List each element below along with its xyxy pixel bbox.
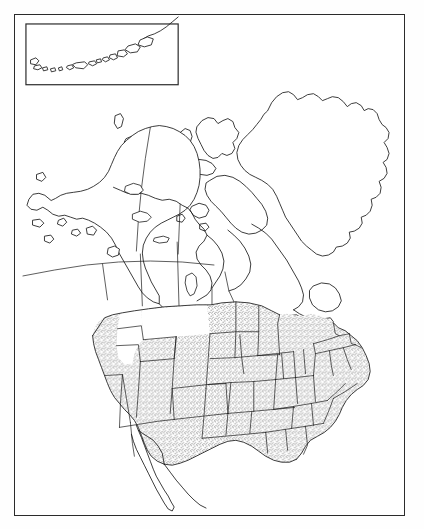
unalaska-island-inset (125, 44, 140, 53)
aleutian-islet-7 (51, 68, 56, 72)
unimak-island-inset (138, 37, 153, 47)
kodiak-island (108, 246, 120, 257)
aleutian-islet-8 (43, 67, 48, 71)
us-stipple-shading (75, 294, 393, 483)
lake-athabasca (153, 236, 169, 243)
saint-lawrence-island (33, 219, 44, 227)
contiguous-united-states (75, 294, 393, 483)
page-frame (14, 14, 405, 516)
labrador-coastline (252, 224, 304, 310)
alaska-coastline (27, 126, 200, 304)
newfoundland-island (309, 283, 341, 312)
alaska-west-islet (37, 172, 46, 181)
baffin-island (205, 175, 268, 234)
alaska-peninsula-inset (143, 17, 178, 39)
aleutian-islet-6 (59, 67, 63, 71)
hudson-bay-east-shore (228, 230, 251, 291)
hudson-bay-west-shore (207, 235, 224, 288)
aleutian-islet-2 (103, 57, 110, 62)
ontario-quebec-boundary (225, 272, 235, 304)
aleutian-islands-inset (26, 17, 178, 85)
montana-unshaded (141, 305, 210, 340)
attu-island-inset (31, 58, 39, 65)
umnak-island-inset (117, 50, 127, 57)
agattu-island-inset (34, 65, 42, 70)
aleutian-islet-5 (67, 65, 74, 70)
alaska-north-islet (114, 114, 123, 129)
alaska-islet-b (72, 229, 81, 236)
north-america-map (15, 15, 404, 515)
alaska-islet-c (58, 218, 67, 226)
aleutian-islet-1 (110, 54, 118, 60)
aleutian-islet-3 (97, 59, 102, 63)
inset-aleutian-chain (31, 17, 178, 72)
canada-territorial-boundary-60n (23, 261, 214, 276)
aleutian-islet-4 (89, 61, 97, 66)
ellesmere-island (196, 118, 239, 159)
alaska-islet-a (87, 226, 97, 235)
nunivak-island (45, 235, 54, 243)
arctic-islet-a (177, 214, 185, 222)
southampton-island (190, 203, 209, 218)
atka-island-inset (73, 62, 88, 69)
map-page (0, 0, 424, 529)
lake-winnipeg (185, 273, 197, 296)
